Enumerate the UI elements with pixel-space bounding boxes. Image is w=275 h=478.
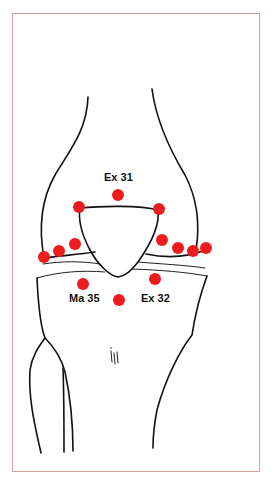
label-ex31: Ex 31 xyxy=(104,172,133,183)
fibula-inner xyxy=(63,368,64,452)
femur-left-edge xyxy=(41,97,88,258)
point-right-2[interactable] xyxy=(172,242,184,254)
joint-line-right-upper xyxy=(138,262,205,268)
point-center-below[interactable] xyxy=(113,294,125,306)
joint-line-right-lower xyxy=(132,269,207,276)
label-ma35: Ma 35 xyxy=(69,293,100,304)
tibia-left-edge xyxy=(30,278,45,453)
tuberosity-mark-2 xyxy=(114,353,115,364)
point-patella-top-left[interactable] xyxy=(73,201,85,213)
point-left-3[interactable] xyxy=(69,238,81,250)
fibula-outer xyxy=(45,338,73,451)
point-left-1[interactable] xyxy=(38,251,50,263)
point-ex32[interactable] xyxy=(149,273,161,285)
point-ma35[interactable] xyxy=(77,278,89,290)
point-right-4[interactable] xyxy=(200,242,212,254)
tuberosity-mark-1 xyxy=(111,351,112,362)
femur-condyle-left xyxy=(44,252,95,258)
point-left-2[interactable] xyxy=(53,245,65,257)
point-right-3[interactable] xyxy=(187,245,199,257)
patella xyxy=(79,206,158,277)
joint-line-left-upper xyxy=(43,262,100,264)
point-ex31[interactable] xyxy=(112,189,124,201)
point-patella-top-right[interactable] xyxy=(153,203,165,215)
tuberosity-dot xyxy=(110,347,112,349)
point-right-1[interactable] xyxy=(156,234,168,246)
tuberosity-mark-3 xyxy=(117,352,118,363)
femur-right-edge xyxy=(152,89,198,250)
knee-diagram xyxy=(0,0,275,478)
label-ex32: Ex 32 xyxy=(141,293,170,304)
joint-line-left-lower xyxy=(37,271,105,278)
